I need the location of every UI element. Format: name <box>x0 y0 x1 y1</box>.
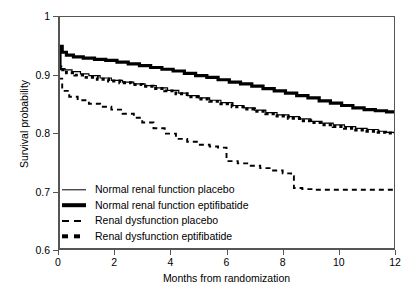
legend-line-thick-icon <box>62 199 86 211</box>
frame-top <box>58 16 395 17</box>
legend-line-dashed-icon <box>62 215 86 227</box>
y-tick <box>53 75 58 76</box>
x-tick <box>114 250 115 255</box>
x-tick <box>283 250 284 255</box>
legend-label: Normal renal function eptifibatide <box>95 198 249 214</box>
x-tick-label: 6 <box>224 256 230 268</box>
legend-line-thin-icon <box>62 184 86 196</box>
y-tick <box>53 192 58 193</box>
x-tick-label: 8 <box>280 256 286 268</box>
x-tick <box>395 250 396 255</box>
x-tick-label: 4 <box>167 256 173 268</box>
legend: Normal renal function placebo Normal ren… <box>62 182 249 244</box>
y-tick-label: 0.7 <box>35 186 50 198</box>
survival-curve-figure: Survival probability Months from randomi… <box>0 0 416 296</box>
legend-item-dysfunction-placebo: Renal dysfunction placebo <box>62 213 249 229</box>
x-tick <box>170 250 171 255</box>
legend-item-dysfunction-eptifibatide: Renal dysfunction eptifibatide <box>62 229 249 245</box>
series-line <box>58 67 395 133</box>
legend-item-normal-eptifibatide: Normal renal function eptifibatide <box>62 198 249 214</box>
frame-right <box>394 16 395 250</box>
legend-label: Renal dysfunction placebo <box>95 213 218 229</box>
y-axis-title: Survival probability <box>18 44 30 204</box>
x-tick <box>58 250 59 255</box>
legend-label: Renal dysfunction eptifibatide <box>95 229 232 245</box>
y-tick-label: 0.9 <box>35 69 50 81</box>
series-line <box>58 79 395 190</box>
y-tick-label: 0.8 <box>35 127 50 139</box>
x-tick-label: 2 <box>111 256 117 268</box>
x-tick <box>339 250 340 255</box>
y-axis-line <box>58 16 60 250</box>
y-tick <box>53 133 58 134</box>
legend-label: Normal renal function placebo <box>95 182 235 198</box>
y-tick-label: 0.6 <box>35 244 50 256</box>
x-axis-title: Months from randomization <box>58 272 395 284</box>
x-tick-label: 12 <box>389 256 401 268</box>
legend-item-normal-placebo: Normal renal function placebo <box>62 182 249 198</box>
x-tick-label: 0 <box>55 256 61 268</box>
x-tick-label: 10 <box>333 256 345 268</box>
series-line <box>58 67 395 134</box>
y-tick <box>53 16 58 17</box>
legend-line-dotted-bold-icon <box>62 230 86 242</box>
x-tick <box>227 250 228 255</box>
y-tick-label: 1 <box>44 10 50 22</box>
